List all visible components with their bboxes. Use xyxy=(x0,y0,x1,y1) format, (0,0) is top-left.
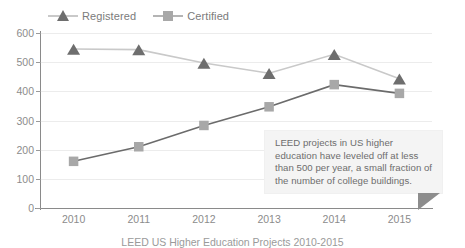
x-axis-tick-label: 2010 xyxy=(44,213,104,225)
x-axis-tick-label: 2011 xyxy=(109,213,169,225)
y-axis-labels: 0100200300400500600 xyxy=(0,0,34,246)
y-axis-tick-label: 600 xyxy=(4,27,34,39)
legend-label-certified: Certified xyxy=(187,10,229,22)
x-axis-tick-label: 2012 xyxy=(174,213,234,225)
y-axis-tick-label: 400 xyxy=(4,85,34,97)
y-axis-tick-label: 200 xyxy=(4,144,34,156)
data-point-registered-2015[interactable] xyxy=(393,74,406,85)
y-axis-tick-label: 0 xyxy=(4,202,34,214)
legend-item-certified[interactable]: Certified xyxy=(153,9,229,23)
chart-legend: Registered Certified xyxy=(48,6,229,26)
square-marker-icon xyxy=(153,9,183,23)
x-axis-tick-label: 2013 xyxy=(239,213,299,225)
data-point-certified-2014[interactable] xyxy=(330,80,340,90)
x-axis-tick-label: 2015 xyxy=(369,213,429,225)
y-axis-tick-label: 100 xyxy=(4,173,34,185)
data-point-certified-2011[interactable] xyxy=(134,142,144,152)
x-axis-tick-label: 2014 xyxy=(304,213,364,225)
data-point-registered-2014[interactable] xyxy=(328,49,341,60)
y-axis-tick-label: 300 xyxy=(4,115,34,127)
data-point-certified-2010[interactable] xyxy=(69,157,79,167)
y-axis-tick-mark xyxy=(36,208,41,209)
series-line-registered xyxy=(74,49,400,79)
chart-caption: LEED US Higher Education Projects 2010-2… xyxy=(0,236,465,248)
callout-text: LEED projects in US higher education hav… xyxy=(275,137,437,187)
callout-box: LEED projects in US higher education hav… xyxy=(265,131,442,193)
data-point-registered-2013[interactable] xyxy=(263,68,276,79)
data-point-certified-2012[interactable] xyxy=(199,121,209,131)
legend-label-registered: Registered xyxy=(82,10,136,22)
triangle-marker-icon xyxy=(48,9,78,23)
data-point-certified-2015[interactable] xyxy=(395,89,405,99)
x-axis-line xyxy=(35,208,433,209)
callout-pointer-icon xyxy=(418,193,440,210)
y-axis-tick-label: 500 xyxy=(4,56,34,68)
legend-item-registered[interactable]: Registered xyxy=(48,9,136,23)
data-point-certified-2013[interactable] xyxy=(264,102,274,112)
